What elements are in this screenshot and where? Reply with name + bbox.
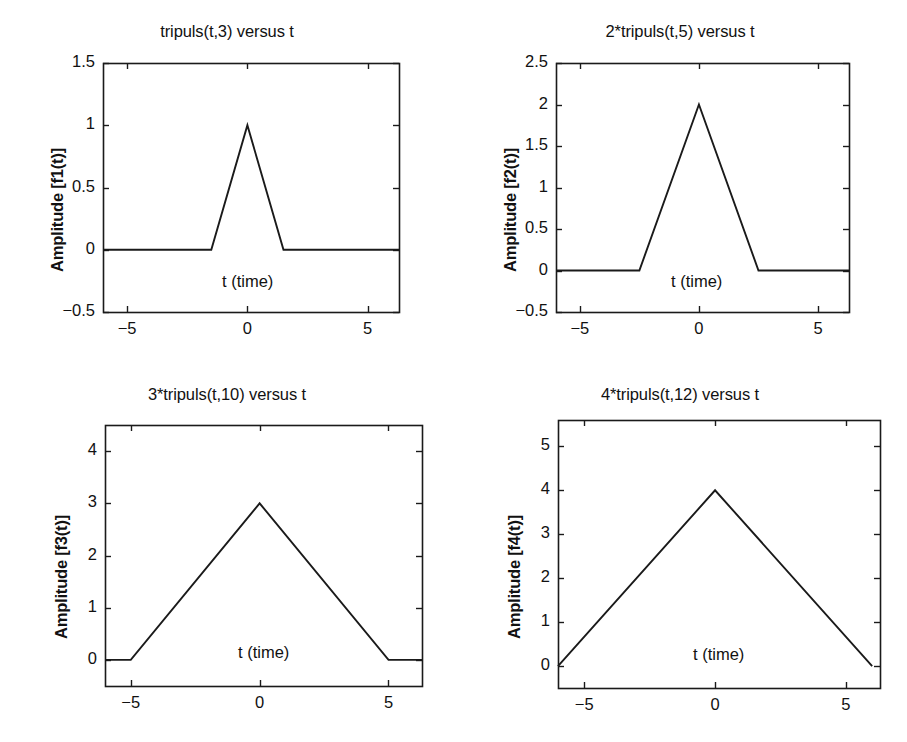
subplot-panel-f4: 4*tripuls(t,12) versus t Amplitude [f4(t… <box>453 371 907 742</box>
y-tick-label: 3 <box>490 523 550 542</box>
x-tick-label: 0 <box>217 319 277 338</box>
y-tick-label: 4 <box>37 440 97 459</box>
y-tick-label: 0 <box>37 649 97 668</box>
data-series-line <box>105 503 422 660</box>
data-series-line <box>558 490 872 666</box>
x-tick-label: −5 <box>550 319 610 338</box>
y-tick-label: 0 <box>35 239 95 258</box>
y-tick-label: 2 <box>490 567 550 586</box>
y-tick-label: 3 <box>37 492 97 511</box>
y-tick-label: 0 <box>488 260 548 279</box>
y-tick-label: 4 <box>490 479 550 498</box>
data-series-line <box>103 125 399 250</box>
y-tick-label: 1 <box>488 177 548 196</box>
x-tick-label: −5 <box>97 319 157 338</box>
y-tick-label: 0.5 <box>35 177 95 196</box>
x-tick-label: 5 <box>358 693 418 712</box>
y-tick-label: 1 <box>35 114 95 133</box>
x-tick-label: 5 <box>788 319 848 338</box>
y-tick-label: 2.5 <box>488 52 548 71</box>
y-tick-label: −0.5 <box>488 301 548 320</box>
y-tick-label: 1 <box>37 597 97 616</box>
y-tick-label: 2 <box>488 94 548 113</box>
subplot-panel-f3: 3*tripuls(t,10) versus t Amplitude [f3(t… <box>0 371 454 742</box>
x-tick-label: 5 <box>816 695 876 714</box>
data-series-line <box>556 105 849 271</box>
subplot-panel-f2: 2*tripuls(t,5) versus t Amplitude [f2(t)… <box>453 0 907 371</box>
y-tick-label: 1.5 <box>35 52 95 71</box>
subplot-panel-f1: tripuls(t,3) versus t Amplitude [f1(t)] … <box>0 0 454 371</box>
y-tick-label: 2 <box>37 545 97 564</box>
x-tick-label: −5 <box>554 695 614 714</box>
y-tick-label: 0.5 <box>488 218 548 237</box>
figure-canvas: tripuls(t,3) versus t Amplitude [f1(t)] … <box>0 0 907 742</box>
x-tick-label: 0 <box>230 693 290 712</box>
y-tick-label: 5 <box>490 435 550 454</box>
x-tick-label: −5 <box>101 693 161 712</box>
y-tick-label: 0 <box>490 655 550 674</box>
y-tick-label: 1.5 <box>488 135 548 154</box>
plot-area <box>453 371 907 742</box>
y-tick-label: 1 <box>490 611 550 630</box>
y-tick-label: −0.5 <box>35 301 95 320</box>
x-tick-label: 0 <box>685 695 745 714</box>
x-tick-label: 5 <box>338 319 398 338</box>
x-tick-label: 0 <box>669 319 729 338</box>
